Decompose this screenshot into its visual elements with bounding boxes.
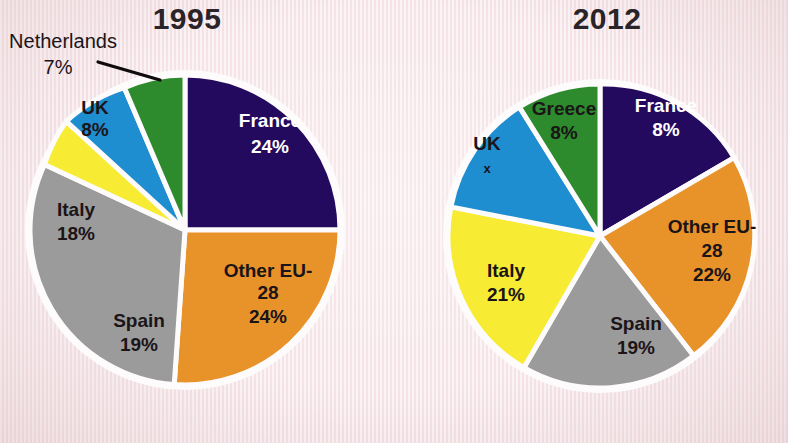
slice-label-2012-greece-value: 8% <box>550 122 578 143</box>
slice-label-2012-italy-name: Italy <box>487 260 525 281</box>
slice-label-2012-other-eu-line1: Other EU- <box>668 216 757 237</box>
slice-label-1995-italy-value: 18% <box>57 223 95 244</box>
slice-label-2012-spain-name: Spain <box>610 313 662 334</box>
slice-label-2012-other-eu-value: 22% <box>693 264 731 285</box>
slice-label-1995-spain-value: 19% <box>120 334 158 355</box>
slice-label-2012-france-name: France <box>635 95 697 116</box>
slice-label-2012-uk-value: x <box>483 161 491 176</box>
pie-svg-1995: France 24% Other EU- 28 24% Spain 19% It… <box>0 0 394 443</box>
slice-label-1995-uk-value: 8% <box>81 119 109 140</box>
slice-label-1995-france-value: 24% <box>251 136 289 157</box>
pie-chart-1995: 1995 France 24% Other EU- 28 24% Spain 1… <box>0 0 394 443</box>
pie-svg-2012: France 8% Other EU- 28 22% Spain 19% Ita… <box>394 0 788 443</box>
slice-label-2012-other-eu-line2: 28 <box>701 240 722 261</box>
slice-label-2012-uk-name: UK <box>473 133 501 154</box>
slice-label-2012-greece-name: Greece <box>532 98 596 119</box>
slice-label-1995-italy-name: Italy <box>57 199 95 220</box>
slice-label-2012-spain-value: 19% <box>617 337 655 358</box>
slice-label-1995-other-eu-line1: Other EU- <box>224 260 313 281</box>
slice-label-1995-spain-name: Spain <box>113 310 165 331</box>
callout-leader-line-1995-netherlands <box>98 62 160 80</box>
slice-label-1995-france-name: France <box>239 110 301 131</box>
callout-label-1995-netherlands-name: Netherlands <box>9 30 117 52</box>
pie-chart-2012: 2012 France 8% Other EU- 28 22% Spain 19… <box>394 0 788 443</box>
slice-label-1995-other-eu-value: 24% <box>249 306 287 327</box>
callout-label-1995-netherlands-value: 7% <box>44 56 73 78</box>
slice-label-1995-uk-name: UK <box>81 97 109 118</box>
slice-label-2012-france-value: 8% <box>652 119 680 140</box>
slice-label-2012-italy-value: 21% <box>487 284 525 305</box>
slice-label-1995-other-eu-line2: 28 <box>257 282 278 303</box>
